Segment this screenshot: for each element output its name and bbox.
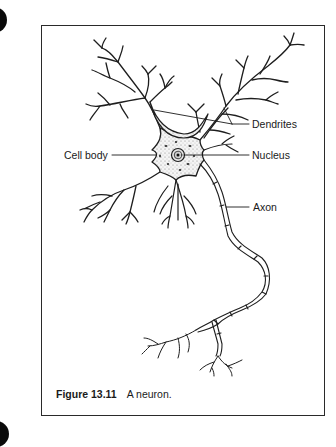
label-cell-body: Cell body bbox=[64, 149, 108, 161]
dendrite-right bbox=[204, 136, 238, 152]
nucleolus bbox=[177, 154, 180, 157]
label-axon: Axon bbox=[253, 201, 277, 213]
dendrite-lower-center bbox=[154, 180, 196, 228]
caption-text: A neuron. bbox=[127, 388, 172, 400]
dendrite-upper-left bbox=[86, 38, 174, 128]
label-dendrites: Dendrites bbox=[252, 118, 297, 130]
caption-number: Figure 13.11 bbox=[56, 388, 117, 400]
soma-upper-arc bbox=[150, 102, 208, 138]
dendrite-lower-left bbox=[80, 172, 160, 224]
label-nucleus: Nucleus bbox=[252, 149, 290, 161]
axon bbox=[196, 160, 269, 356]
axon-terminals bbox=[142, 330, 242, 376]
figure-caption: Figure 13.11A neuron. bbox=[56, 388, 172, 400]
